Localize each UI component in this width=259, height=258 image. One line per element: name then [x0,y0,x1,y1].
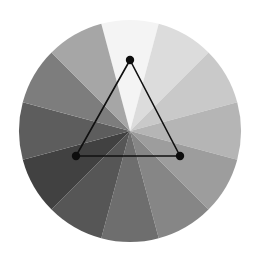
triad-vertex-bottom-right-handle[interactable] [176,152,184,160]
value-wheel-figure [0,0,259,258]
triad-vertex-top-handle[interactable] [126,56,134,64]
figure-canvas [0,0,259,258]
wheel-segments-group [19,20,241,242]
triad-vertex-bottom-left-handle[interactable] [72,152,80,160]
